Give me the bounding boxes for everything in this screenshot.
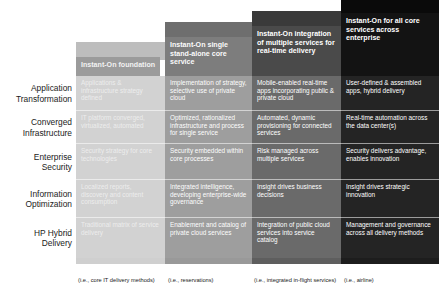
cell-app-transformation: User-defined & assembled apps, hybrid de… — [341, 76, 439, 111]
column-header-all-core-services: Instant-On for all core services across … — [341, 13, 439, 76]
cell-app-transformation: Implementation of strategy, selective us… — [165, 76, 252, 111]
row-label-line: Application — [31, 83, 72, 93]
row-label-hp-hybrid-delivery: HP Hybrid Delivery — [0, 218, 76, 258]
column-body: Implementation of strategy, selective us… — [165, 76, 252, 262]
cell-converged-infrastructure: IT platform converged, virtualized, auto… — [76, 111, 165, 144]
column-instant-on-foundation: Instant-On foundation Applications & inf… — [76, 0, 165, 262]
maturity-matrix: Application Transformation Converged Inf… — [0, 0, 444, 290]
cell-information-optimization: Localized reports, discovery and content… — [76, 180, 165, 218]
row-label-line: Delivery — [42, 238, 72, 248]
cell-hp-hybrid-delivery: Management and governance across all del… — [341, 218, 439, 262]
row-label-line: Security — [42, 162, 72, 172]
footer-strip-column-2 — [165, 258, 252, 264]
column-header-label: Instant-On foundation — [81, 61, 155, 69]
footnote-column-2: (i.e., reservations) — [168, 277, 214, 284]
cell-information-optimization: Integrated intelligence, developing ente… — [165, 180, 252, 218]
cell-enterprise-security: Security delivers advantage, enables inn… — [341, 144, 439, 180]
column-header-label: Instant-On single stand-alone core servi… — [170, 41, 228, 66]
column-body: User-defined & assembled apps, hybrid de… — [341, 76, 439, 262]
column-body: Mobile-enabled real-time apps incorporat… — [252, 76, 341, 262]
row-label-line: Transformation — [16, 94, 72, 104]
footer-strip-column-3 — [252, 258, 341, 264]
cell-hp-hybrid-delivery: Integration of public cloud services int… — [252, 218, 341, 262]
footnote-column-4: (i.e., airline) — [344, 277, 374, 284]
column-header-label: Instant-On integration of multiple servi… — [257, 30, 335, 55]
row-label-converged-infrastructure: Converged Infrastructure — [0, 111, 76, 144]
row-label-application-transformation: Application Transformation — [0, 76, 76, 111]
row-label-line: Optimization — [25, 199, 72, 209]
cell-information-optimization: Insight drives strategic innovation — [341, 180, 439, 218]
footer-strip-column-4 — [341, 258, 439, 264]
row-label-line: Enterprise — [34, 152, 72, 162]
column-header-single-core-service: Instant-On single stand-alone core servi… — [165, 37, 252, 76]
cell-converged-infrastructure: Optimized, rationalized infrastructure a… — [165, 111, 252, 144]
cell-enterprise-security: Risk managed across multiple services — [252, 144, 341, 180]
row-label-column: Application Transformation Converged Inf… — [0, 76, 76, 258]
row-label-enterprise-security: Enterprise Security — [0, 144, 76, 180]
column-instant-on-integration-multiple-services: Instant-On integration of multiple servi… — [252, 0, 341, 262]
column-body: Applications & infrastructure strategy d… — [76, 76, 165, 262]
cell-app-transformation: Mobile-enabled real-time apps incorporat… — [252, 76, 341, 111]
cell-app-transformation: Applications & infrastructure strategy d… — [76, 76, 165, 111]
column-header-integration-multiple-services: Instant-On integration of multiple servi… — [252, 26, 341, 76]
cell-hp-hybrid-delivery: Enablement and catalog of private cloud … — [165, 218, 252, 262]
footer-strip-column-1 — [76, 258, 165, 264]
cell-converged-infrastructure: Automated, dynamic provisioning for conn… — [252, 111, 341, 144]
row-label-information-optimization: Information Optimization — [0, 180, 76, 218]
row-label-line: Converged — [31, 117, 72, 127]
cell-enterprise-security: Security strategy for core technologies — [76, 144, 165, 180]
footnote-column-1: (i.e., core IT delivery methods) — [78, 277, 155, 284]
cell-converged-infrastructure: Real-time automation across the data cen… — [341, 111, 439, 144]
cell-enterprise-security: Security embedded within core processes — [165, 144, 252, 180]
column-instant-on-all-core-services: Instant-On for all core services across … — [341, 0, 439, 262]
cell-information-optimization: Insight drives business decisions — [252, 180, 341, 218]
column-header-instant-on-foundation: Instant-On foundation — [76, 57, 160, 76]
row-label-line: HP Hybrid — [34, 228, 72, 238]
row-label-line: Infrastructure — [23, 128, 72, 138]
row-label-line: Information — [30, 189, 72, 199]
column-instant-on-single-core-service: Instant-On single stand-alone core servi… — [165, 0, 252, 262]
footnote-column-3: (i.e., integrated in-flight services) — [254, 277, 336, 284]
cell-hp-hybrid-delivery: Traditional matrix of service delivery — [76, 218, 165, 262]
column-header-label: Instant-On for all core services across … — [346, 17, 420, 42]
